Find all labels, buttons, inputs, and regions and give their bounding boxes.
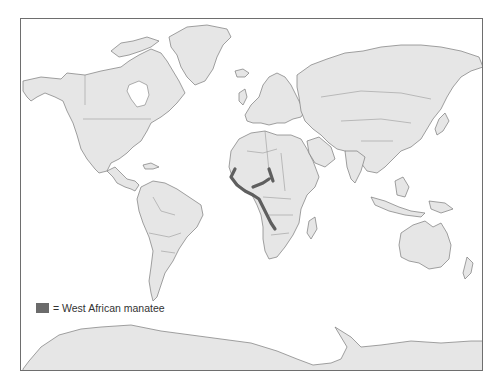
japan xyxy=(435,113,449,135)
iceland xyxy=(235,69,249,77)
antarctica xyxy=(23,325,483,371)
british-isles xyxy=(239,89,247,105)
legend-swatch xyxy=(36,303,49,313)
europe xyxy=(245,73,305,125)
world-map xyxy=(21,19,483,371)
caribbean-islands xyxy=(143,163,159,169)
india xyxy=(345,151,365,183)
map-frame xyxy=(20,18,483,371)
greenland xyxy=(169,25,231,85)
central-america xyxy=(107,167,139,191)
legend: = West African manatee xyxy=(36,302,165,314)
legend-species-label: West African manatee xyxy=(62,302,165,314)
philippines-borneo xyxy=(395,177,409,197)
new-guinea xyxy=(429,201,453,213)
legend-equals-symbol: = xyxy=(53,302,59,314)
legend-label: = West African manatee xyxy=(53,302,165,314)
north-america xyxy=(23,49,185,173)
africa xyxy=(229,131,319,259)
indonesia xyxy=(371,197,425,217)
new-zealand xyxy=(463,257,473,279)
south-america xyxy=(137,181,203,301)
australia xyxy=(399,221,451,269)
madagascar xyxy=(307,217,317,239)
